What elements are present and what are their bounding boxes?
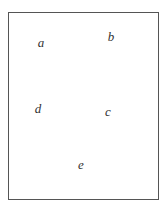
label-c: c bbox=[105, 105, 111, 118]
diagram-frame bbox=[8, 12, 159, 200]
label-e: e bbox=[78, 158, 84, 171]
label-b: b bbox=[108, 30, 115, 43]
label-d: d bbox=[35, 102, 42, 115]
label-a: a bbox=[38, 36, 45, 49]
